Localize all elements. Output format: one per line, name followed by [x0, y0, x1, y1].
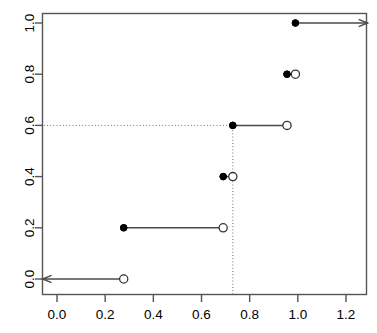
x-axis: 0.00.20.40.60.81.01.2 — [48, 295, 356, 322]
x-tick-label-1: 0.2 — [96, 307, 115, 322]
ecdf-plot: 0.00.20.40.60.81.01.20.00.20.40.60.81.0 — [0, 0, 377, 333]
y-tick-label-1: 0.2 — [22, 218, 37, 237]
step-open-point-0 — [120, 275, 128, 283]
plot-canvas: 0.00.20.40.60.81.01.20.00.20.40.60.81.0 — [0, 0, 377, 333]
step-segment-3 — [230, 121, 292, 129]
step-segment-0 — [43, 275, 128, 283]
step-open-point-3 — [283, 121, 291, 129]
x-tick-label-5: 1.0 — [288, 307, 307, 322]
closed-point-overlay-4 — [284, 71, 291, 78]
x-tick-label-6: 1.2 — [337, 307, 356, 322]
step-segment-5 — [292, 19, 368, 26]
y-tick-label-2: 0.4 — [22, 167, 37, 186]
x-tick-label-4: 0.8 — [240, 307, 259, 322]
step-open-point-1 — [219, 224, 227, 232]
x-tick-label-3: 0.6 — [192, 307, 211, 322]
step-segment-1 — [120, 224, 227, 232]
y-axis: 0.00.20.40.60.81.0 — [22, 14, 43, 289]
closed-point-overlay-3 — [230, 122, 237, 129]
y-tick-label-5: 1.0 — [22, 14, 37, 33]
step-segments-group — [43, 19, 368, 283]
y-tick-label-4: 0.8 — [22, 65, 37, 84]
y-tick-label-3: 0.6 — [22, 116, 37, 135]
y-tick-label-0: 0.0 — [22, 270, 37, 289]
closed-point-overlay-5 — [292, 20, 299, 27]
plot-box-frame — [43, 14, 367, 295]
step-open-point-2 — [229, 173, 237, 181]
reference-lines-group — [44, 125, 233, 294]
step-open-point-4 — [291, 70, 299, 78]
closed-point-overlay-1 — [120, 225, 127, 232]
x-tick-label-0: 0.0 — [48, 307, 67, 322]
x-tick-label-2: 0.4 — [144, 307, 163, 322]
closed-point-overlay-2 — [220, 173, 227, 180]
